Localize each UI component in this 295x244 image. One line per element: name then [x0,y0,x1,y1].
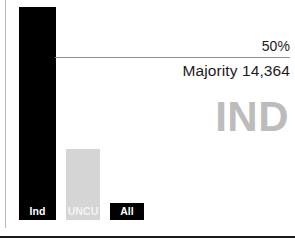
bar-ind [19,7,56,204]
threshold-percent-label: 50% [262,38,290,54]
bar-label-ind: Ind [19,203,56,220]
bar-chart-plot: 50% Majority 14,364 IND Ind UNCU All [0,0,295,228]
winner-watermark: IND [215,96,289,138]
majority-annotation: Majority 14,364 [183,62,290,80]
bar-label-uncut: UNCU [66,203,100,220]
bar-uncut [66,149,100,204]
bar-label-all: All [110,203,144,220]
majority-threshold-line [55,57,290,58]
bottom-frame-rule [0,236,295,238]
chart-screenshot: 50% Majority 14,364 IND Ind UNCU All [0,0,295,244]
